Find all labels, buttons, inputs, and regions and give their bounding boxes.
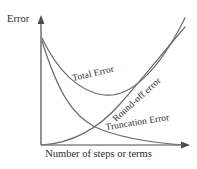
plot-canvas: Total Error Round-off error Truncation E… <box>0 0 197 169</box>
x-axis-label: Number of steps or terms <box>0 148 197 159</box>
y-axis-arrowhead <box>38 15 45 24</box>
total-error-label: Total Error <box>71 64 115 83</box>
error-vs-steps-figure: Total Error Round-off error Truncation E… <box>0 0 197 169</box>
y-axis-label: Error <box>7 13 29 24</box>
total-error-curve <box>42 18 185 95</box>
